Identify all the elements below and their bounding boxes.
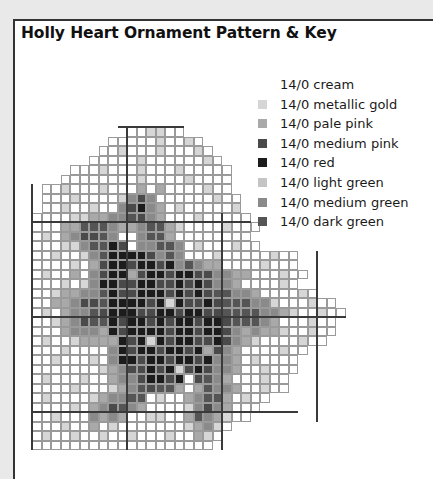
bead-cell xyxy=(194,146,204,156)
bead-cell xyxy=(70,346,80,356)
bead-cell xyxy=(137,251,147,261)
bead-cell xyxy=(137,194,147,204)
legend-label: 14/0 cream xyxy=(280,75,354,94)
bead-cell xyxy=(137,203,147,213)
guide-line-vertical xyxy=(126,127,128,450)
bead-cell xyxy=(260,346,270,356)
bead-cell xyxy=(222,222,232,232)
bead-cell xyxy=(99,355,109,365)
bead-cell xyxy=(289,251,299,261)
bead-cell xyxy=(61,431,71,441)
bead-cell xyxy=(213,156,223,166)
bead-cell xyxy=(42,184,52,194)
bead-cell xyxy=(156,137,166,147)
bead-cell xyxy=(89,241,99,251)
bead-cell xyxy=(156,194,166,204)
bead-cell xyxy=(175,441,185,451)
bead-cell xyxy=(184,232,194,242)
bead-cell xyxy=(251,241,261,251)
bead-cell xyxy=(222,241,232,251)
bead-cell xyxy=(32,346,42,356)
bead-cell xyxy=(251,270,261,280)
bead-cell xyxy=(99,374,109,384)
bead-cell xyxy=(61,384,71,394)
bead-cell xyxy=(270,251,280,261)
bead-cell xyxy=(194,374,204,384)
bead-cell xyxy=(241,298,251,308)
bead-cell xyxy=(270,298,280,308)
bead-cell xyxy=(156,184,166,194)
bead-cell xyxy=(108,355,118,365)
bead-cell xyxy=(127,384,137,394)
bead-cell xyxy=(165,317,175,327)
bead-cell xyxy=(127,327,137,337)
bead-cell xyxy=(89,374,99,384)
bead-cell xyxy=(70,374,80,384)
bead-cell xyxy=(251,365,261,375)
bead-cell xyxy=(99,165,109,175)
bead-cell xyxy=(89,232,99,242)
bead-cell xyxy=(165,127,175,137)
bead-cell xyxy=(175,194,185,204)
bead-cell xyxy=(80,251,90,261)
bead-cell xyxy=(156,393,166,403)
bead-cell xyxy=(42,279,52,289)
bead-cell xyxy=(146,241,156,251)
bead-cell xyxy=(194,327,204,337)
bead-cell xyxy=(127,289,137,299)
bead-cell xyxy=(108,374,118,384)
bead-cell xyxy=(146,393,156,403)
bead-cell xyxy=(42,346,52,356)
bead-cell xyxy=(222,393,232,403)
bead-cell xyxy=(61,336,71,346)
bead-cell xyxy=(194,441,204,451)
bead-cell xyxy=(89,431,99,441)
bead-cell xyxy=(42,270,52,280)
bead-cell xyxy=(175,251,185,261)
bead-cell xyxy=(61,184,71,194)
bead-cell xyxy=(127,298,137,308)
bead-cell xyxy=(241,384,251,394)
bead-cell xyxy=(232,279,242,289)
bead-cell xyxy=(89,393,99,403)
color-swatch-icon xyxy=(258,158,267,167)
bead-cell xyxy=(232,365,242,375)
bead-cell xyxy=(175,241,185,251)
bead-cell xyxy=(127,355,137,365)
bead-cell xyxy=(156,251,166,261)
bead-cell xyxy=(137,441,147,451)
bead-cell xyxy=(127,270,137,280)
bead-cell xyxy=(127,165,137,175)
bead-cell xyxy=(108,232,118,242)
guide-line-horizontal xyxy=(118,126,185,128)
bead-cell xyxy=(194,175,204,185)
bead-cell xyxy=(89,317,99,327)
bead-cell xyxy=(213,184,223,194)
bead-cell xyxy=(222,203,232,213)
bead-cell xyxy=(184,346,194,356)
bead-cell xyxy=(279,346,289,356)
bead-cell xyxy=(317,298,327,308)
bead-cell xyxy=(51,393,61,403)
bead-cell xyxy=(61,327,71,337)
bead-cell xyxy=(251,374,261,384)
bead-cell xyxy=(241,327,251,337)
bead-cell xyxy=(137,270,147,280)
bead-cell xyxy=(222,270,232,280)
bead-cell xyxy=(165,355,175,365)
bead-cell xyxy=(80,289,90,299)
bead-cell xyxy=(127,441,137,451)
bead-cell xyxy=(165,412,175,422)
bead-cell xyxy=(251,289,261,299)
bead-cell xyxy=(156,384,166,394)
bead-cell xyxy=(194,137,204,147)
bead-cell xyxy=(203,298,213,308)
bead-cell xyxy=(156,317,166,327)
bead-cell xyxy=(327,327,337,337)
bead-cell xyxy=(175,232,185,242)
bead-cell xyxy=(251,260,261,270)
bead-cell xyxy=(184,175,194,185)
bead-cell xyxy=(99,279,109,289)
bead-cell xyxy=(99,346,109,356)
bead-cell xyxy=(270,279,280,289)
